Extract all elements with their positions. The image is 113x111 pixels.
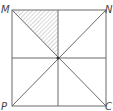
center-point — [57, 57, 60, 60]
label-c: C — [105, 101, 112, 111]
label-p: P — [1, 101, 8, 111]
label-n: N — [105, 4, 113, 15]
label-m: M — [1, 4, 10, 15]
square-diagram: M N P C — [0, 0, 113, 111]
